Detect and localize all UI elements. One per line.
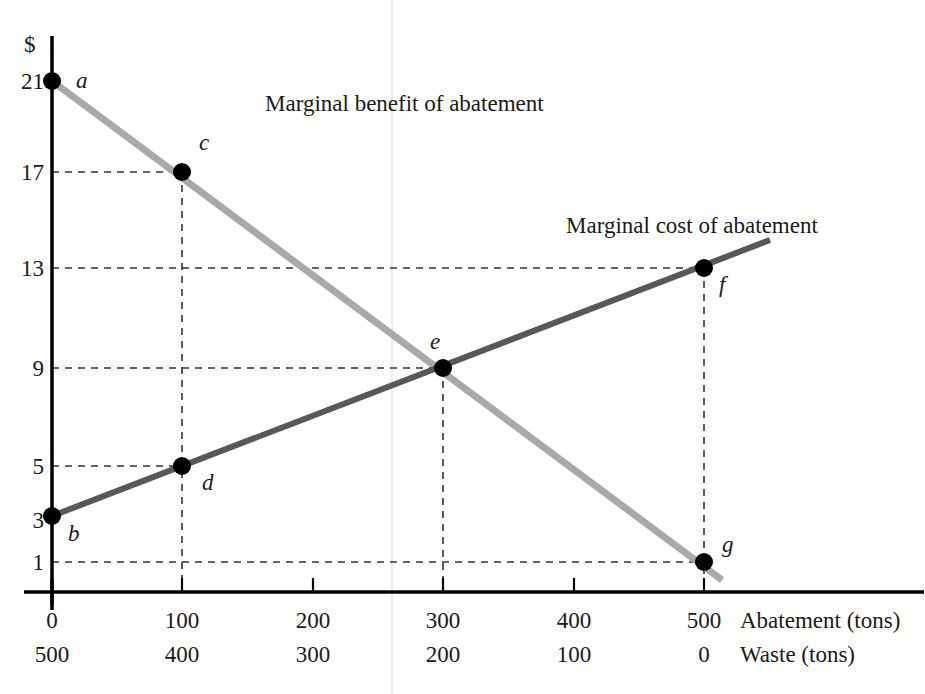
y-tick-label-21: 21 (21, 69, 44, 94)
x-axis-title-waste: Waste (tons) (740, 642, 855, 667)
x-tick-label-400: 400 (557, 608, 592, 633)
marginal-cost-curve (52, 240, 770, 516)
x-tick-label-0: 0 (46, 608, 58, 633)
point-label-b: b (68, 521, 80, 546)
x-tick-label-200: 200 (296, 608, 331, 633)
y-tick-label-9: 9 (33, 356, 45, 381)
waste-tick-label-500: 500 (35, 642, 70, 667)
x-tick-label-500: 500 (687, 608, 722, 633)
point-label-d: d (202, 470, 214, 495)
benefit-curve-label: Marginal benefit of abatement (265, 91, 544, 116)
waste-tick-label-300: 300 (296, 642, 331, 667)
point-label-g: g (722, 532, 734, 557)
y-tick-label-1: 1 (33, 550, 45, 575)
abatement-chart: a b c d e f g $ 21 17 13 9 5 3 1 0 100 2… (0, 0, 925, 694)
point-e (434, 359, 452, 377)
point-label-f: f (719, 272, 729, 297)
point-label-e: e (430, 329, 440, 354)
y-tick-label-5: 5 (33, 454, 45, 479)
chart-container: a b c d e f g $ 21 17 13 9 5 3 1 0 100 2… (0, 0, 925, 694)
point-d (173, 457, 191, 475)
point-c (173, 163, 191, 181)
point-b (43, 507, 61, 525)
y-tick-label-17: 17 (21, 160, 44, 185)
point-f (695, 259, 713, 277)
x-tick-label-300: 300 (426, 608, 461, 633)
y-tick-label-13: 13 (21, 256, 44, 281)
point-label-a: a (76, 68, 88, 93)
point-a (43, 72, 61, 90)
waste-tick-label-200: 200 (426, 642, 461, 667)
y-axis-dollar-symbol: $ (24, 32, 36, 57)
point-g (695, 553, 713, 571)
cost-curve-label: Marginal cost of abatement (566, 213, 818, 238)
marginal-benefit-curve (52, 81, 722, 580)
x-axis-title-abatement: Abatement (tons) (740, 608, 900, 633)
waste-tick-label-0: 0 (698, 642, 710, 667)
x-tick-label-100: 100 (165, 608, 200, 633)
waste-tick-label-400: 400 (165, 642, 200, 667)
y-tick-label-3: 3 (33, 508, 45, 533)
waste-tick-label-100: 100 (557, 642, 592, 667)
point-label-c: c (199, 130, 209, 155)
